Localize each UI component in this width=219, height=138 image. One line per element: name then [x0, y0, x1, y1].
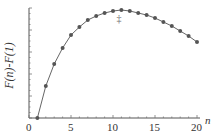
- chart-plot: ‡: [0, 0, 219, 138]
- data-point: [52, 62, 56, 66]
- data-point: [178, 29, 182, 33]
- data-point: [145, 13, 149, 17]
- data-point: [35, 116, 39, 120]
- data-point: [119, 8, 123, 12]
- x-axis-label: n: [205, 114, 211, 126]
- data-point: [103, 11, 107, 15]
- annotation-marker: ‡: [117, 13, 122, 24]
- data-point: [69, 33, 73, 37]
- data-point: [77, 25, 81, 29]
- x-tick-label: 20: [191, 121, 202, 133]
- data-point: [170, 24, 174, 28]
- x-tick-label: 0: [26, 121, 32, 133]
- data-point: [61, 46, 65, 50]
- data-point: [136, 11, 140, 15]
- x-tick-label: 15: [149, 121, 160, 133]
- x-tick-label: 10: [107, 121, 118, 133]
- data-point: [153, 16, 157, 20]
- y-axis-label: F(n)-F(1): [2, 42, 17, 89]
- data-point: [94, 14, 98, 18]
- data-point: [86, 18, 90, 22]
- data-point: [128, 9, 132, 13]
- x-tick-label: 5: [68, 121, 74, 133]
- data-point: [195, 40, 199, 44]
- data-point: [44, 84, 48, 88]
- data-point: [161, 20, 165, 24]
- data-point: [111, 9, 115, 13]
- data-point: [187, 34, 191, 38]
